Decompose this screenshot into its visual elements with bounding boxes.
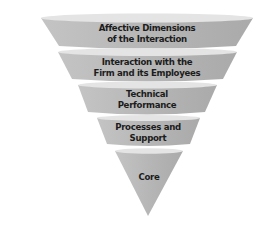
label-affective-line2: of the Interaction	[47, 34, 247, 45]
label-processes-line1: Processes and	[48, 122, 248, 133]
label-technical: Technical Performance	[47, 89, 247, 110]
label-interaction: Interaction with the Firm and its Employ…	[47, 57, 247, 78]
label-affective: Affective Dimensions of the Interaction	[47, 23, 247, 44]
label-core: Core	[49, 172, 249, 183]
label-interaction-line1: Interaction with the	[47, 57, 247, 68]
label-interaction-line2: Firm and its Employees	[47, 68, 247, 79]
label-processes: Processes and Support	[48, 122, 248, 143]
label-core-line1: Core	[49, 172, 249, 183]
label-technical-line2: Performance	[47, 100, 247, 111]
label-processes-line2: Support	[48, 133, 248, 144]
label-technical-line1: Technical	[47, 89, 247, 100]
label-affective-line1: Affective Dimensions	[47, 23, 247, 34]
